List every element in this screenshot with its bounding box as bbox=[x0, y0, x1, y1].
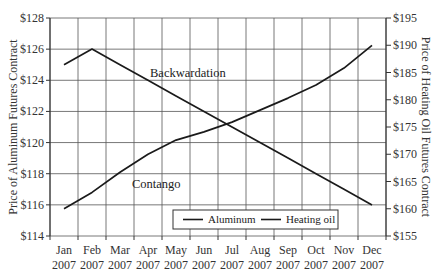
x-tick-month: Oct bbox=[307, 243, 325, 257]
x-tick-month: Jul bbox=[225, 243, 240, 257]
x-tick-year: 2007 bbox=[360, 258, 384, 272]
x-tick-year: 2007 bbox=[108, 258, 132, 272]
annotation-contango: Contango bbox=[132, 177, 181, 191]
x-tick-month: Sep bbox=[279, 243, 297, 257]
legend: Aluminum Heating oil bbox=[173, 210, 338, 229]
x-tick-month: Jun bbox=[196, 243, 213, 257]
left-tick-label: $122 bbox=[20, 104, 44, 118]
right-tick-label: $165 bbox=[393, 175, 417, 189]
right-tick-label: $155 bbox=[393, 229, 417, 243]
x-tick-year: 2007 bbox=[276, 258, 300, 272]
x-tick-year: 2007 bbox=[52, 258, 76, 272]
x-tick-year: 2007 bbox=[80, 258, 104, 272]
right-tick-label: $180 bbox=[393, 93, 417, 107]
left-tick-label: $120 bbox=[20, 136, 44, 150]
x-tick-month: Nov bbox=[334, 243, 355, 257]
right-tick-label: $175 bbox=[393, 120, 417, 134]
x-tick-year: 2007 bbox=[136, 258, 160, 272]
left-tick-label: $128 bbox=[20, 11, 44, 25]
x-tick-month: Jan bbox=[56, 243, 72, 257]
right-tick-label: $195 bbox=[393, 11, 417, 25]
right-tick-label: $160 bbox=[393, 202, 417, 216]
x-tick-year: 2007 bbox=[332, 258, 356, 272]
x-tick-year: 2007 bbox=[248, 258, 272, 272]
legend-label-aluminum: Aluminum bbox=[208, 213, 256, 225]
x-tick-month: Dec bbox=[362, 243, 381, 257]
left-tick-label: $114 bbox=[20, 229, 44, 243]
left-tick-label: $126 bbox=[20, 42, 44, 56]
x-tick-month: Apr bbox=[139, 243, 158, 257]
futures-price-chart: $114$116$118$120$122$124$126$128$155$160… bbox=[0, 0, 435, 276]
right-tick-label: $190 bbox=[393, 38, 417, 52]
x-tick-month: Mar bbox=[110, 243, 130, 257]
x-tick-year: 2007 bbox=[220, 258, 244, 272]
right-axis-label: Price of Heating Oil Futures Contract bbox=[419, 37, 433, 218]
left-tick-label: $118 bbox=[20, 167, 44, 181]
right-tick-label: $185 bbox=[393, 66, 417, 80]
x-tick-year: 2007 bbox=[304, 258, 328, 272]
right-tick-label: $170 bbox=[393, 147, 417, 161]
x-tick-month: Feb bbox=[83, 243, 101, 257]
axes: $114$116$118$120$122$124$126$128$155$160… bbox=[20, 11, 417, 272]
left-tick-label: $124 bbox=[20, 73, 44, 87]
x-tick-month: May bbox=[165, 243, 187, 257]
legend-label-heating-oil: Heating oil bbox=[286, 213, 335, 225]
x-tick-year: 2007 bbox=[192, 258, 216, 272]
left-axis-label: Price of Aluminum Futures Contract bbox=[6, 39, 20, 215]
x-tick-year: 2007 bbox=[164, 258, 188, 272]
left-tick-label: $116 bbox=[20, 198, 44, 212]
x-tick-month: Aug bbox=[250, 243, 271, 257]
annotation-backwardation: Backwardation bbox=[150, 66, 226, 80]
